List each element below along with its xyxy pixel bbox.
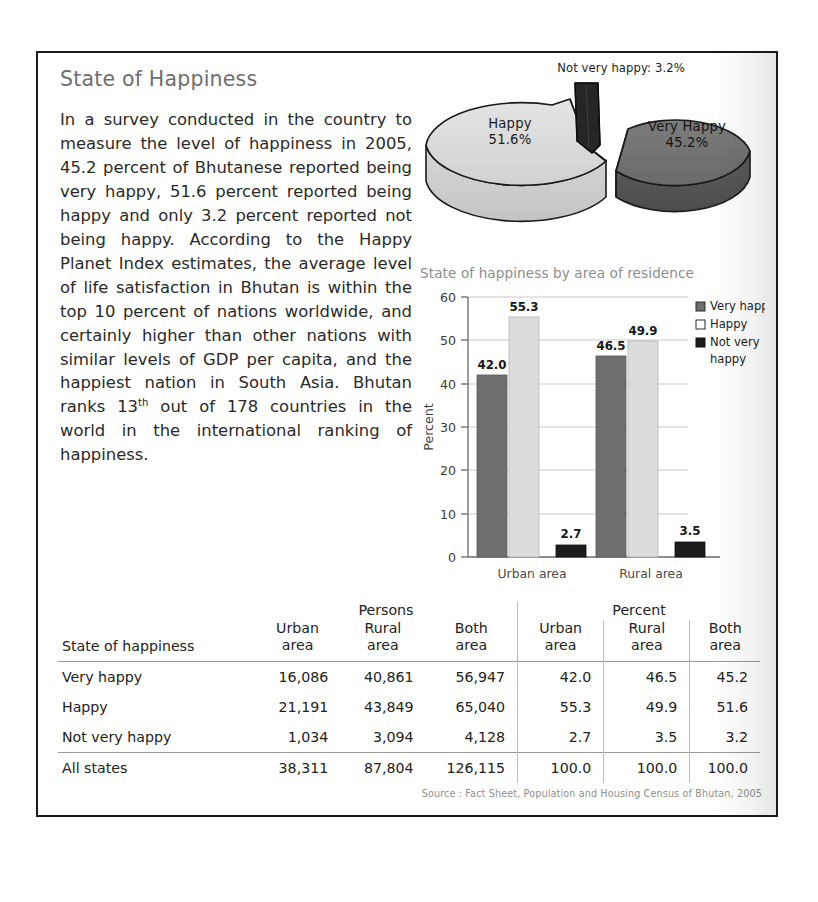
pie-chart: Not very happy: 3.2%: [420, 59, 760, 271]
cell-very-happy-persons-both: 56,947: [426, 661, 518, 692]
cell-not-very-happy-percent-both: 3.2: [690, 722, 760, 753]
column-header-persons-rural: Rural area: [340, 620, 425, 661]
cell-happy-percent-both: 51.6: [690, 692, 760, 722]
cell-not-very-happy-percent-rural: 3.5: [604, 722, 690, 753]
cell-not-very-happy-percent-urban: 2.7: [518, 722, 604, 753]
column-header-persons-both: Both area: [426, 620, 518, 661]
column-header-persons-rural-line2: area: [367, 637, 399, 653]
column-header-percent-both: Both area: [690, 620, 760, 661]
table-row: Very happy 16,086 40,861 56,947 42.0 46.…: [58, 661, 760, 692]
bar-rural-happy: [628, 341, 658, 557]
cell-not-very-happy-persons-both: 4,128: [426, 722, 518, 753]
cell-happy-persons-both: 65,040: [426, 692, 518, 722]
legend-label-not-very-happy-line2: happy: [710, 352, 746, 366]
y-tick-60: 60: [440, 290, 456, 305]
cell-very-happy-percent-rural: 46.5: [604, 661, 690, 692]
column-header-state-of-happiness: State of happiness: [58, 620, 255, 661]
column-header-persons-rural-line1: Rural: [365, 620, 402, 636]
table-row: All states 38,311 87,804 126,115 100.0 1…: [58, 752, 760, 783]
bar-chart: State of happiness by area of residence: [420, 265, 765, 595]
page-title: State of Happiness: [60, 67, 412, 91]
pie-label-very-happy: Very Happy 45.2%: [632, 119, 742, 150]
bar-value-urban-happy: 55.3: [509, 300, 538, 314]
bar-rural-very-happy: [596, 356, 626, 557]
cell-all-states-percent-both: 100.0: [690, 752, 760, 783]
column-header-percent-both-line2: area: [709, 637, 741, 653]
column-header-percent-rural-line1: Rural: [628, 620, 665, 636]
article-column: State of Happiness In a survey conducted…: [60, 67, 412, 467]
column-header-percent-urban-line1: Urban: [539, 620, 582, 636]
table-row: Happy 21,191 43,849 65,040 55.3 49.9 51.…: [58, 692, 760, 722]
cell-all-states-persons-both: 126,115: [426, 752, 518, 783]
cell-happy-percent-rural: 49.9: [604, 692, 690, 722]
article-body-part1: In a survey conducted in the country to …: [60, 110, 412, 416]
group-header-persons: Persons: [255, 602, 518, 620]
infographic-card: State of Happiness In a survey conducted…: [36, 51, 778, 817]
bar-urban-happy: [509, 317, 539, 557]
row-label-not-very-happy: Not very happy: [58, 722, 255, 753]
column-header-persons-both-line2: area: [456, 637, 488, 653]
y-axis-ticks: [461, 297, 468, 557]
data-table: Persons Percent State of happiness Urban…: [58, 602, 760, 783]
pie-label-very-happy-name: Very Happy: [632, 119, 742, 135]
y-axis-title: Percent: [421, 403, 436, 450]
legend-label-very-happy: Very happy: [710, 299, 765, 313]
bar-value-urban-not-very-happy: 2.7: [561, 527, 582, 541]
bar-group-urban: 42.0 55.3 2.7: [477, 300, 586, 557]
column-header-persons-urban-line2: area: [282, 637, 314, 653]
pie-label-happy-value: 51.6%: [456, 132, 564, 148]
pie-label-happy-name: Happy: [456, 116, 564, 132]
y-tick-10: 10: [440, 507, 456, 522]
group-header-blank: [58, 602, 255, 620]
column-header-persons-urban: Urban area: [255, 620, 340, 661]
table-column-header-row: State of happiness Urban area Rural area…: [58, 620, 760, 661]
row-label-all-states: All states: [58, 752, 255, 783]
bar-value-rural-very-happy: 46.5: [596, 339, 625, 353]
legend-swatch-happy: [696, 320, 705, 329]
article-body: In a survey conducted in the country to …: [60, 108, 412, 467]
column-header-persons-urban-line1: Urban: [276, 620, 319, 636]
pie-annotation-not-very-happy: Not very happy: 3.2%: [506, 61, 736, 75]
cell-not-very-happy-persons-urban: 1,034: [255, 722, 340, 753]
bar-group-rural: 46.5 49.9 3.5: [596, 324, 705, 557]
bar-urban-very-happy: [477, 375, 507, 557]
cell-happy-percent-urban: 55.3: [518, 692, 604, 722]
bar-value-rural-happy: 49.9: [628, 324, 657, 338]
group-header-percent: Percent: [518, 602, 760, 620]
y-axis-tick-labels: 60 50 40 30 20 10 0: [440, 290, 456, 565]
column-header-percent-both-line1: Both: [709, 620, 742, 636]
x-tick-urban-area: Urban area: [497, 566, 566, 581]
cell-very-happy-percent-both: 45.2: [690, 661, 760, 692]
row-label-very-happy: Very happy: [58, 661, 255, 692]
bar-chart-legend: Very happy Happy Not very happy: [696, 299, 765, 366]
y-tick-20: 20: [440, 463, 456, 478]
bar-value-rural-not-very-happy: 3.5: [680, 524, 701, 538]
cell-happy-persons-rural: 43,849: [340, 692, 425, 722]
cell-all-states-percent-urban: 100.0: [518, 752, 604, 783]
legend-label-happy: Happy: [710, 317, 748, 331]
column-header-percent-urban: Urban area: [518, 620, 604, 661]
bar-rural-not-very-happy: [675, 542, 705, 557]
y-tick-50: 50: [440, 333, 456, 348]
legend-swatch-very-happy: [696, 302, 705, 311]
y-tick-40: 40: [440, 377, 456, 392]
column-header-percent-rural-line2: area: [631, 637, 663, 653]
pie-label-very-happy-value: 45.2%: [632, 135, 742, 151]
y-tick-0: 0: [448, 550, 456, 565]
cell-very-happy-percent-urban: 42.0: [518, 661, 604, 692]
table-group-header-row: Persons Percent: [58, 602, 760, 620]
row-label-happy: Happy: [58, 692, 255, 722]
pie-label-happy: Happy 51.6%: [456, 116, 564, 147]
column-header-percent-rural: Rural area: [604, 620, 690, 661]
bar-chart-title: State of happiness by area of residence: [420, 265, 765, 281]
column-header-percent-urban-line2: area: [545, 637, 577, 653]
source-note: Source : Fact Sheet, Population and Hous…: [58, 788, 762, 799]
cell-all-states-percent-rural: 100.0: [604, 752, 690, 783]
legend-label-not-very-happy-line1: Not very: [710, 335, 760, 349]
pie-chart-graphic: [420, 75, 760, 265]
cell-all-states-persons-urban: 38,311: [255, 752, 340, 783]
happiness-table: Persons Percent State of happiness Urban…: [58, 602, 760, 783]
column-header-persons-both-line1: Both: [455, 620, 488, 636]
pie-slice-not-very-happy: [575, 83, 600, 153]
bar-urban-not-very-happy: [556, 545, 586, 557]
